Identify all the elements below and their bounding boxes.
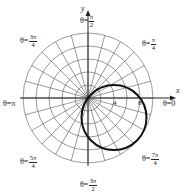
label-value: π (11, 100, 15, 108)
label-prefix: θ= (80, 17, 88, 25)
angle-label-pi-over-4: θ= π4 (142, 37, 156, 51)
y-axis-label: y (81, 4, 85, 13)
angle-label-0: θ=0 (163, 100, 175, 108)
angle-label-pi-over-2: θ= π2 (80, 14, 94, 28)
tick-label-4: 4 (113, 99, 117, 107)
angle-label-5pi-over-4: θ= 5π4 (20, 155, 37, 169)
label-prefix: θ= (142, 40, 150, 48)
denominator: 2 (91, 186, 94, 193)
label-prefix: θ= (142, 155, 150, 163)
fraction: 3π2 (89, 178, 97, 192)
label-value: 0 (171, 100, 175, 108)
fraction: 7π4 (151, 152, 159, 166)
x-axis-label: x (176, 86, 180, 95)
fraction: 5π4 (29, 155, 37, 169)
fraction: π4 (151, 37, 155, 51)
label-prefix: θ= (20, 37, 28, 45)
angle-label-3pi-over-4: θ= 3π4 (20, 34, 37, 48)
denominator: 4 (152, 45, 155, 52)
denominator: 2 (90, 22, 93, 29)
label-prefix: θ= (163, 100, 171, 108)
fraction: 3π4 (29, 34, 37, 48)
label-prefix: θ= (20, 158, 28, 166)
denominator: 4 (153, 160, 156, 167)
denominator: 4 (31, 42, 34, 49)
label-prefix: θ= (3, 100, 11, 108)
fraction: π2 (89, 14, 93, 28)
angle-label-3pi-over-2: θ= 3π2 (80, 178, 97, 192)
angle-label-pi: θ=π (3, 100, 15, 108)
denominator: 4 (31, 163, 34, 170)
tick-label-8: 8 (138, 99, 142, 107)
label-prefix: θ= (80, 181, 88, 189)
angle-label-7pi-over-4: θ= 7π4 (142, 152, 159, 166)
